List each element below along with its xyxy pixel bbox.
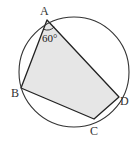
vertex-label-b: B [11,86,19,100]
inscribed-quadrilateral-diagram: A B C D 60° [0,0,135,142]
vertex-label-c: C [90,124,98,138]
vertex-label-a: A [40,4,49,18]
quadrilateral-abcd [21,20,119,119]
angle-value-label: 60° [42,32,57,44]
vertex-label-d: D [120,94,129,108]
